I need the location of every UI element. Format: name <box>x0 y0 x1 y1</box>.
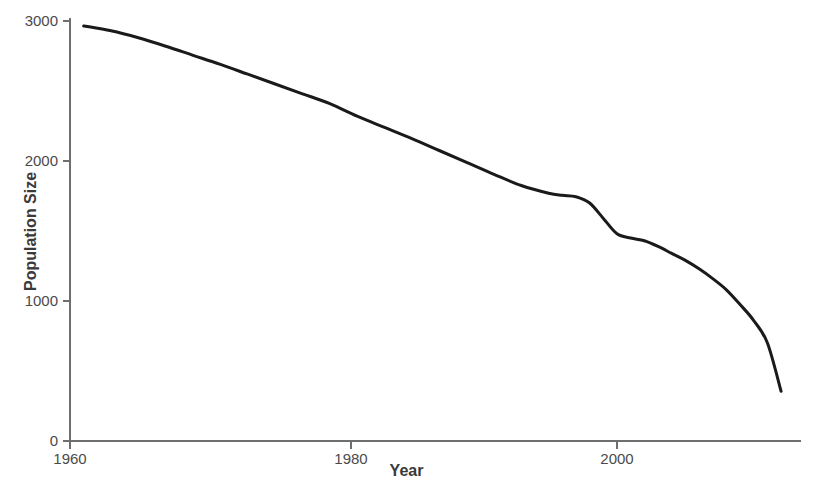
chart-container: 3000 2000 1000 0 1960 1980 2000 Populati… <box>0 0 813 484</box>
y-axis-title: Population Size <box>22 171 40 290</box>
y-tick-label-2000: 2000 <box>6 152 58 169</box>
data-series-line <box>84 26 781 391</box>
y-tick-label-0: 0 <box>6 432 58 449</box>
x-axis-title: Year <box>0 462 813 480</box>
chart-plot-area <box>0 0 813 484</box>
y-tick-label-3000: 3000 <box>6 12 58 29</box>
y-tick-label-1000: 1000 <box>6 292 58 309</box>
